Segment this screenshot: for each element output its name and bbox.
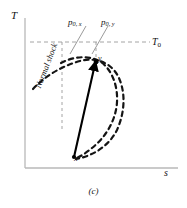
y-axis-label: T	[11, 9, 17, 21]
normal-shock-arrow	[74, 64, 95, 157]
state-point-x-label: x	[74, 154, 78, 163]
diagram-canvas	[0, 0, 187, 208]
figure-caption: (c)	[0, 186, 187, 196]
rayleigh-line-curve	[61, 57, 117, 159]
p0x-subscript: 0, x	[73, 20, 82, 27]
stagnation-pressure-y-label: p0, y	[101, 17, 115, 27]
t0-subscript: 0	[158, 41, 162, 49]
stagnation-pressure-x-label: p0, x	[68, 17, 82, 27]
state-point-y-label: y	[98, 54, 102, 63]
p0y-leader-line	[92, 26, 108, 54]
p0y-subscript: 0, y	[106, 20, 115, 27]
stagnation-temperature-label: T0	[152, 36, 161, 49]
figure-ts-diagram: T s T0 p0, x p0, y y x Normal shock (c)	[0, 0, 187, 208]
p0x-leader-line	[70, 26, 86, 54]
x-axis-label: s	[164, 167, 168, 178]
